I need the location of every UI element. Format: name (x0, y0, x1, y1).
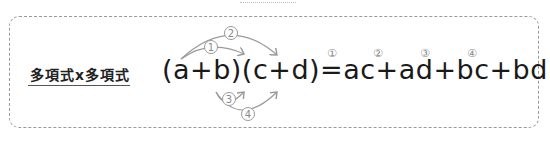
term-marker-1: ① (325, 47, 339, 60)
formula-left: (a+b)(c+d) (162, 54, 320, 85)
svg-text:4: 4 (245, 109, 251, 120)
formula: (a+b)(c+d)=ac+ad+bc+bd (162, 54, 548, 85)
term-marker-4: ④ (465, 47, 479, 60)
svg-text:1: 1 (208, 42, 214, 53)
svg-text:3: 3 (226, 94, 232, 105)
term-marker-2: ② (371, 47, 385, 60)
term-marker-3: ③ (418, 47, 432, 60)
svg-text:2: 2 (228, 28, 234, 39)
